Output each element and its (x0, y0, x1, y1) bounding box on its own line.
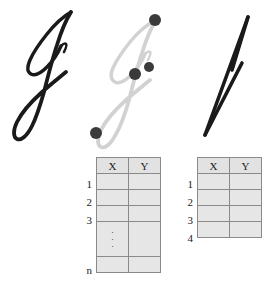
signature-figures-row (0, 0, 274, 152)
sample-point-marker (129, 68, 141, 80)
cell-y[interactable] (230, 206, 262, 222)
table-row[interactable] (97, 257, 161, 273)
cursive-j-signature-sampled-icon (78, 0, 174, 150)
table-header-row: X Y (97, 158, 161, 174)
sample-point-marker (149, 14, 161, 26)
column-header-y: Y (129, 158, 161, 174)
cell-x[interactable] (97, 190, 129, 206)
polyline-approximation-panel (182, 0, 268, 154)
vertical-ellipsis-icon: · · · (97, 222, 129, 257)
table-row[interactable] (198, 206, 262, 222)
tables-row: 1 2 3 n X Y (0, 152, 274, 295)
cell-x[interactable] (198, 222, 230, 238)
column-header-y: Y (230, 158, 262, 174)
row-label: 3 (87, 215, 93, 226)
cell-x[interactable] (198, 190, 230, 206)
cell-x[interactable] (198, 174, 230, 190)
table-header-row: X Y (198, 158, 262, 174)
cell-x[interactable] (198, 206, 230, 222)
sample-point-marker (144, 62, 154, 72)
reduced-sample-table-wrap: 1 2 3 4 X Y (177, 157, 262, 247)
cell-x[interactable] (97, 174, 129, 190)
cell-y[interactable] (230, 174, 262, 190)
cursive-j-signature-icon (8, 0, 80, 150)
reduced-sample-row-labels: 1 2 3 4 (177, 157, 197, 247)
table-ellipsis-row: · · · (97, 222, 161, 257)
table-row[interactable] (198, 222, 262, 238)
polyline-j-signature-icon (182, 0, 268, 150)
row-label: 1 (87, 179, 93, 190)
table-row[interactable] (198, 174, 262, 190)
cell-y[interactable] (230, 222, 262, 238)
cell-y[interactable] (129, 257, 161, 273)
reduced-sample-table[interactable]: X Y (197, 157, 262, 238)
sample-point-marker (90, 127, 102, 139)
column-header-x: X (97, 158, 129, 174)
cell-y[interactable] (129, 190, 161, 206)
cell-y[interactable] (129, 206, 161, 222)
table-row[interactable] (97, 174, 161, 190)
sampled-signature-panel (78, 0, 174, 154)
row-label: 1 (188, 179, 194, 190)
row-label: 2 (188, 197, 194, 208)
cell-x[interactable] (97, 257, 129, 273)
full-sample-row-labels: 1 2 3 n (76, 157, 96, 272)
table-row[interactable] (97, 190, 161, 206)
full-sample-table-wrap: 1 2 3 n X Y (76, 157, 161, 273)
row-label: 4 (188, 233, 194, 244)
cell-x[interactable] (97, 206, 129, 222)
original-signature-panel (8, 0, 80, 154)
cell-y[interactable] (129, 174, 161, 190)
full-sample-table[interactable]: X Y (96, 157, 161, 273)
cell-y-ellipsis (129, 222, 161, 257)
row-label: n (87, 265, 93, 276)
table-row[interactable] (97, 206, 161, 222)
column-header-x: X (198, 158, 230, 174)
table-row[interactable] (198, 190, 262, 206)
figure-page: 1 2 3 n X Y (0, 0, 274, 295)
row-label: 2 (87, 197, 93, 208)
row-label: 3 (188, 215, 194, 226)
cell-y[interactable] (230, 190, 262, 206)
